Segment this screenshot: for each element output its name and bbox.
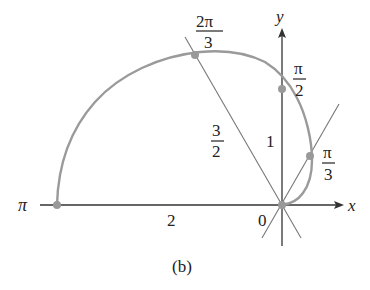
radius-label-2: 2 xyxy=(167,211,176,230)
angle-label-pi-2-denominator: 2 xyxy=(295,81,304,100)
origin-label: 0 xyxy=(258,211,267,230)
angle-label-pi-2-numerator: π xyxy=(294,59,303,78)
point-origin xyxy=(278,201,286,209)
radius-label-3-2-denominator: 2 xyxy=(212,142,221,161)
y-axis-label: y xyxy=(274,7,284,26)
point-2pi-3 xyxy=(191,51,199,59)
figure-caption: (b) xyxy=(172,257,192,276)
polar-curve xyxy=(57,51,312,205)
polar-curve-diagram: x y 0 π 2π 3 π 2 π 3 2 3 2 1 (b) xyxy=(0,0,370,290)
angle-label-pi: π xyxy=(18,195,28,215)
angle-label-pi-3-denominator: 3 xyxy=(324,165,333,184)
point-pi-3 xyxy=(306,152,314,160)
angle-label-pi-3-numerator: π xyxy=(323,143,332,162)
radius-label-3-2-numerator: 3 xyxy=(212,121,221,140)
angle-label-2pi-3-numerator: 2π xyxy=(196,12,214,31)
x-axis-label: x xyxy=(347,196,356,215)
point-pi-2 xyxy=(278,85,286,93)
angle-label-2pi-3-denominator: 3 xyxy=(204,33,213,52)
point-pi xyxy=(53,201,61,209)
radius-label-1: 1 xyxy=(266,132,275,151)
